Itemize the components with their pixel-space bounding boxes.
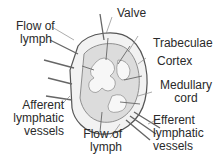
label-valve: Valve: [117, 7, 146, 20]
label-flow-of-lymph-top: Flow of lymph: [16, 20, 52, 46]
label-medullary-cord: Medullary cord: [155, 79, 217, 105]
label-line: cord: [155, 92, 217, 105]
label-cortex: Cortex: [157, 55, 192, 68]
label-line: lymph: [16, 33, 52, 46]
lymph-node: [70, 33, 160, 140]
label-trabeculae: Trabeculae: [153, 37, 213, 50]
label-line: vessels: [153, 140, 204, 153]
label-afferent-lymphatic-vessels: Afferent lymphatic vessels: [4, 99, 64, 138]
label-flow-of-lymph-bottom: Flow of lymph: [82, 128, 122, 154]
label-efferent-lymphatic-vessels: Efferent lymphatic vessels: [153, 114, 204, 153]
label-line: lymph: [82, 141, 122, 154]
label-line: vessels: [4, 125, 64, 138]
